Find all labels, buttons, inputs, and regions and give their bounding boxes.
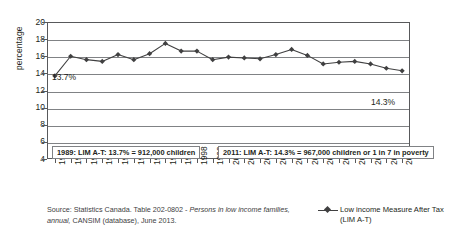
- x-tick-mark-2002: [260, 159, 261, 163]
- x-tick-mark-2010: [386, 159, 387, 163]
- x-tick-mark-1998: [197, 159, 198, 163]
- data-point-2001: [242, 55, 247, 60]
- x-tick-mark-2007: [339, 159, 340, 163]
- legend-item-lim-after-tax: Low income Measure After Tax: [318, 205, 458, 215]
- data-point-1991: [84, 57, 89, 62]
- chart-legend: Low income Measure After Tax (LIM A-T): [318, 205, 458, 225]
- data-point-2005: [305, 53, 310, 58]
- x-tick-mark-2009: [371, 159, 372, 163]
- legend-line-marker-icon: [318, 205, 338, 215]
- x-tick-mark-2004: [292, 159, 293, 163]
- data-point-2011: [400, 68, 405, 73]
- x-tick-mark-1996: [165, 159, 166, 163]
- data-point-1999: [210, 57, 215, 62]
- x-tick-mark-1995: [150, 159, 151, 163]
- x-tick-mark-1997: [181, 159, 182, 163]
- callout-1989: 1989: LIM A-T: 13.7% = 912,000 children: [52, 146, 200, 159]
- source-prefix: Source: Statistics Canada. Table 202-080…: [47, 205, 190, 214]
- data-point-1997: [179, 49, 184, 54]
- x-tick-mark-2011: [402, 159, 403, 163]
- callout-2011: 2011: LIM A-T: 14.3% = 967,000 children …: [218, 146, 434, 159]
- data-point-1993: [115, 52, 120, 57]
- annotation-first-point: 13.7%: [52, 72, 76, 82]
- chart-figure: percentage 201816141210864 1989199019911…: [0, 0, 464, 235]
- data-point-2008: [352, 59, 357, 64]
- y-tick-mark-4: [42, 159, 47, 160]
- data-point-2006: [321, 61, 326, 66]
- data-point-2009: [368, 61, 373, 66]
- data-point-1998: [194, 49, 199, 54]
- data-point-1992: [100, 59, 105, 64]
- data-point-2010: [384, 66, 389, 71]
- x-tick-mark-1990: [71, 159, 72, 163]
- data-series-lim-after-tax: [47, 22, 410, 159]
- x-tick-mark-2003: [276, 159, 277, 163]
- data-point-2004: [289, 47, 294, 52]
- x-tick-mark-1999: [213, 159, 214, 163]
- annotation-last-point: 14.3%: [371, 97, 395, 107]
- x-tick-label-1998: 1998: [200, 146, 209, 165]
- x-tick-mark-1989: [55, 159, 56, 163]
- data-point-2003: [273, 52, 278, 57]
- x-tick-mark-2008: [355, 159, 356, 163]
- x-tick-mark-1993: [118, 159, 119, 163]
- x-tick-mark-1991: [86, 159, 87, 163]
- data-point-2002: [257, 56, 262, 61]
- source-note: Source: Statistics Canada. Table 202-080…: [47, 205, 297, 226]
- x-tick-mark-2005: [307, 159, 308, 163]
- source-line2: CANSIM (database), June 2013.: [73, 216, 177, 225]
- x-tick-mark-2000: [229, 159, 230, 163]
- legend-sublabel: (LIM A-T): [340, 215, 458, 225]
- data-point-2000: [226, 55, 231, 60]
- legend-label: Low income Measure After Tax: [340, 205, 458, 215]
- x-tick-mark-1994: [134, 159, 135, 163]
- data-point-2007: [336, 60, 341, 65]
- data-point-1994: [131, 57, 136, 62]
